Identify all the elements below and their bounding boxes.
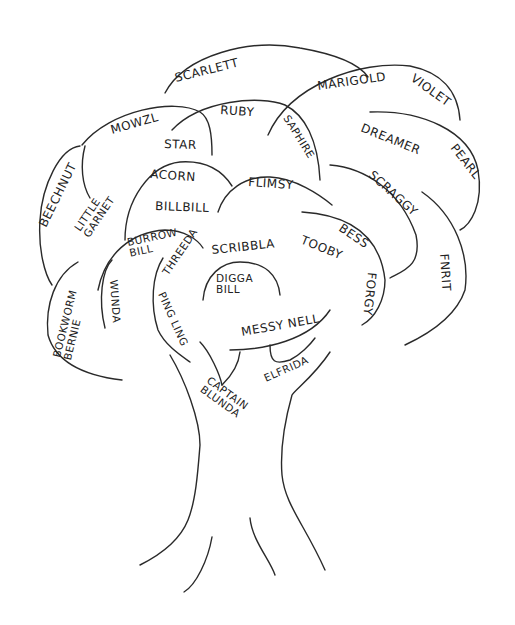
label-captain-blunda: CAPTAINBLUNDA: [198, 374, 250, 421]
label-ruby: RUBY: [220, 103, 255, 119]
label-elfrida: ELFRIDA: [262, 353, 311, 383]
label-bill-bill: BILLBILL: [155, 199, 210, 215]
label-beechnut: BEECHNUT: [36, 160, 79, 229]
label-scraggy: SCRAGGY: [366, 168, 421, 219]
label-fnrit: FNRIT: [437, 253, 454, 292]
label-little-garnet: LITTLEGARNET: [72, 188, 117, 239]
tree-drawing: SCARLETTRUBYMARIGOLDVIOLETMOWZLSTARSAPHI…: [0, 0, 515, 625]
label-ping-ling: PING LING: [156, 290, 191, 348]
label-star: STAR: [164, 137, 197, 152]
label-tooby: TOOBY: [298, 232, 345, 262]
label-dreamer: DREAMER: [359, 121, 423, 158]
label-violet: VIOLET: [408, 71, 453, 109]
label-scribbla: SCRIBBLA: [211, 236, 276, 257]
label-bookworm-bernie: BOOKWORMBERNIE: [50, 289, 89, 362]
label-pearl: PEARL: [448, 141, 484, 182]
label-flimsy: FLIMSY: [248, 175, 294, 192]
label-marigold: MARIGOLD: [316, 69, 386, 92]
trunk: [140, 342, 330, 592]
label-wunda: WUNDA: [108, 279, 123, 324]
label-scarlett: SCARLETT: [173, 55, 240, 84]
label-messy-nell: MESSY NELL: [240, 311, 320, 339]
label-acorn: ACORN: [150, 167, 197, 184]
label-digga-bill: DIGGABILL: [216, 272, 253, 295]
label-forgy: FORGY: [360, 272, 378, 317]
tree-diagram: SCARLETTRUBYMARIGOLDVIOLETMOWZLSTARSAPHI…: [0, 0, 515, 625]
label-bess: BESS: [336, 221, 371, 251]
label-mowzl: MOWZL: [109, 110, 160, 137]
